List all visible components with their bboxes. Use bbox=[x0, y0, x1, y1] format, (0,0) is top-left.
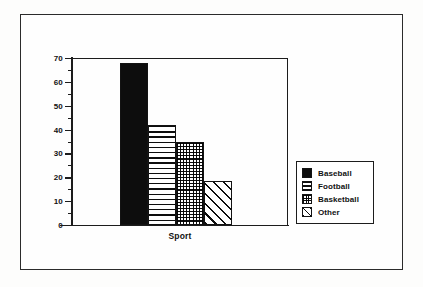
y-tick-label-60: 60 bbox=[23, 78, 63, 87]
legend-item-football[interactable]: Football bbox=[302, 180, 368, 192]
y-tick-label-10: 10 bbox=[23, 197, 63, 206]
y-tick-label-50: 50 bbox=[23, 102, 63, 111]
legend-item-other[interactable]: Other bbox=[302, 206, 368, 218]
legend-item-baseball[interactable]: Baseball bbox=[302, 167, 368, 179]
chart-screenshot: 70 60 50 40 30 20 10 0 bbox=[0, 0, 423, 287]
legend-label-football: Football bbox=[318, 182, 350, 191]
bar-basketball[interactable] bbox=[176, 142, 204, 226]
legend-label-baseball: Baseball bbox=[318, 169, 352, 178]
diagonal-hatch-swatch-icon bbox=[302, 207, 312, 217]
horizontal-lines-swatch-icon bbox=[302, 181, 312, 191]
y-tick-label-0: 0 bbox=[23, 221, 63, 230]
cross-hatch-swatch-icon bbox=[302, 194, 312, 204]
y-tick-label-30: 30 bbox=[23, 149, 63, 158]
bar-chart-figure: 70 60 50 40 30 20 10 0 bbox=[0, 0, 423, 287]
bar-baseball[interactable] bbox=[120, 63, 148, 225]
y-tick-label-40: 40 bbox=[23, 126, 63, 135]
legend-item-basketball[interactable]: Basketball bbox=[302, 193, 368, 205]
chart-legend: Baseball Football Basketball Other bbox=[296, 161, 374, 224]
legend-label-basketball: Basketball bbox=[318, 195, 359, 204]
bars-layer bbox=[72, 58, 288, 225]
legend-label-other: Other bbox=[318, 208, 340, 217]
y-tick-label-70: 70 bbox=[23, 54, 63, 63]
bar-football[interactable] bbox=[148, 125, 176, 225]
solid-black-swatch-icon bbox=[302, 168, 312, 178]
bar-other[interactable] bbox=[204, 181, 232, 225]
x-axis-title: Sport bbox=[72, 231, 288, 241]
y-tick-label-20: 20 bbox=[23, 173, 63, 182]
